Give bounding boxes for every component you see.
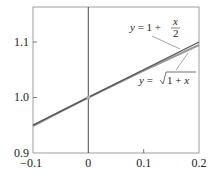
annotation-linear: y = 1 + [129,21,161,33]
annotation-linear-denominator: 2 [173,27,179,39]
y-tick-label: 1.0 [14,90,29,104]
x-tick-label: 0.2 [192,156,207,170]
annotation-linear-numerator: x [172,15,178,27]
x-tick-label: −0.1 [20,156,42,170]
x-tick-label: 0.1 [136,156,151,170]
x-tick-label: 0 [85,156,91,170]
annotation-sqrt-radicand: 1 + x [167,74,189,86]
annotation-sqrt: y = [138,74,153,86]
y-tick-label: 1.1 [14,35,29,49]
tangent-point [86,96,90,100]
chart: y = 1 + x 2 y = 1 + x 1.1 1.0 0.9 −0.1 0… [0,0,217,172]
